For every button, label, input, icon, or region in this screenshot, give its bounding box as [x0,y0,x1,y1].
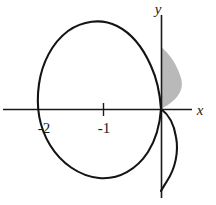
shaded-region [161,47,182,109]
figure-canvas: y x -2 -1 [0,0,216,205]
x-tick-label-minus-1: -1 [98,120,111,136]
y-axis-label: y [153,1,162,17]
limacon-outer-curve [38,21,161,178]
limacon-inner-loop [161,109,177,191]
x-axis-label: x [196,102,204,118]
polar-curve-figure: y x -2 -1 [0,0,216,205]
x-tick-label-minus-2: -2 [38,120,51,136]
